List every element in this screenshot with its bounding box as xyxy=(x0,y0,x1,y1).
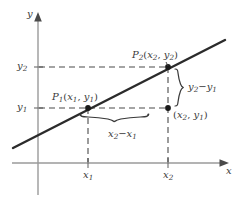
x-axis-label: x xyxy=(226,166,232,176)
y2-subscript: 2 xyxy=(23,64,28,73)
point-corner-marker xyxy=(165,105,171,111)
p1-paren-close: ) xyxy=(94,91,98,102)
run-operator: − xyxy=(118,128,126,139)
y-axis-arrow-icon xyxy=(34,12,42,22)
x1-subscript: 1 xyxy=(89,173,94,182)
diagram-canvas xyxy=(0,0,238,201)
horizontal-brace-icon xyxy=(80,114,148,122)
y-axis-label: y xyxy=(27,9,33,19)
p2-paren-close: ) xyxy=(174,49,178,60)
rise-operator: − xyxy=(198,81,206,92)
point-p1-label: P1(x1, y1) xyxy=(52,92,98,103)
y-tick-label-y1: y1 xyxy=(17,102,27,113)
point-corner-label: (x2, y1) xyxy=(173,110,208,121)
vertical-brace-label: y2−y1 xyxy=(188,82,217,93)
slope-diagram-figure: y x y2 y1 x1 x2 P1(x1, y1) P2(x2, y2) (x… xyxy=(0,0,238,201)
x2-subscript: 2 xyxy=(169,173,174,182)
axes-group xyxy=(12,12,229,195)
run-b-subscript: 1 xyxy=(132,132,137,141)
vertical-brace-icon xyxy=(175,69,183,106)
rise-b-subscript: 1 xyxy=(212,85,217,94)
p1-name-base: P xyxy=(52,91,59,102)
y-tick-label-y2: y2 xyxy=(17,61,27,72)
y1-subscript: 1 xyxy=(23,105,28,114)
p2-name-base: P xyxy=(132,49,139,60)
corner-paren-close: ) xyxy=(204,109,208,120)
x-tick-label-x2: x2 xyxy=(163,170,173,181)
point-p2-label: P2(x2, y2) xyxy=(132,50,178,61)
point-p1-marker xyxy=(85,105,91,111)
horizontal-brace-label: x2−x1 xyxy=(108,129,137,140)
x-tick-label-x1: x1 xyxy=(83,170,93,181)
point-p2-marker xyxy=(165,64,171,70)
